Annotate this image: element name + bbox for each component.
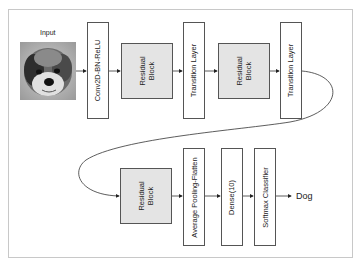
connector-arrows (0, 0, 360, 267)
